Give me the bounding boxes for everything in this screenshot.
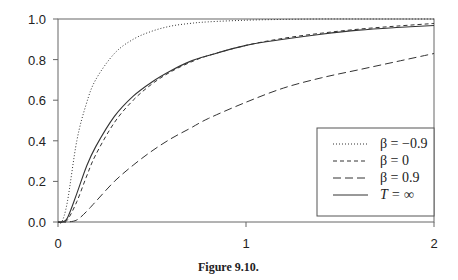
legend: β = −0.9β = 0β = 0.9T = ∞	[317, 128, 434, 216]
line-chart: 0.00.20.40.60.81.0012 β = −0.9β = 0β = 0…	[0, 0, 458, 280]
y-tick-label: 1.0	[28, 12, 46, 27]
x-tick-label: 2	[430, 236, 437, 251]
y-tick-label: 0.8	[28, 53, 46, 68]
legend-label: β = −0.9	[380, 136, 427, 151]
x-tick-label: 0	[54, 236, 61, 251]
x-tick-label: 1	[242, 236, 249, 251]
figure-caption: Figure 9.10.	[198, 260, 259, 275]
legend-label: β = 0	[380, 153, 409, 168]
legend-label: β = 0.9	[380, 170, 420, 185]
y-tick-label: 0.0	[28, 215, 46, 230]
legend-label: T = ∞	[380, 187, 414, 202]
y-tick-label: 0.6	[28, 93, 46, 108]
y-tick-label: 0.4	[28, 134, 46, 149]
y-tick-label: 0.2	[28, 174, 46, 189]
